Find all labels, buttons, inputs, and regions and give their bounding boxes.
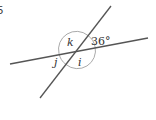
angle-label-36: 36° — [91, 35, 111, 48]
intersecting-lines-diagram: k 36° j i — [0, 0, 156, 120]
angle-label-j: j — [51, 56, 58, 69]
angle-label-i: i — [78, 56, 82, 69]
angle-label-k: k — [67, 36, 74, 49]
line-diagonal — [40, 6, 111, 98]
